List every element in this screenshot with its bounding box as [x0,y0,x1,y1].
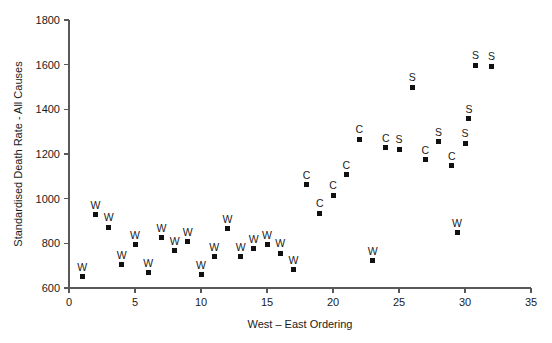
data-point-label: W [368,245,378,257]
data-point-label: W [104,211,114,223]
data-point: S [488,50,495,69]
data-point: C [329,179,337,198]
data-point-label: W [170,235,180,247]
data-point-label: W [117,249,127,261]
data-point-marker [291,267,296,272]
data-point-marker [455,230,460,235]
data-point-label: W [196,259,206,271]
data-point-marker [93,212,98,217]
data-point-marker [383,145,388,150]
x-tick-label: 5 [132,296,138,308]
data-point-marker [265,242,270,247]
y-axis-title: Standardised Death Rate - All Causes [12,61,24,247]
y-tick-label: 1600 [36,59,60,71]
data-point-marker [410,85,415,90]
data-point-marker [489,64,494,69]
data-point: C [356,123,364,142]
data-point: W [368,245,378,264]
data-point-marker [185,239,190,244]
data-point-marker [172,248,177,253]
data-point-label: S [488,50,495,62]
x-tick-label: 0 [66,296,72,308]
x-tick-label: 10 [195,296,207,308]
data-point: W [288,254,298,273]
data-point: W [249,233,259,252]
data-point-marker [119,262,124,267]
scatter-plot-figure: 6008001000120014001600180005101520253035… [0,0,552,343]
data-point: W [236,241,246,260]
data-point-marker [466,116,471,121]
data-point-label: C [382,132,390,144]
x-axis-title: West – East Ordering [248,318,353,330]
data-point-label: S [472,49,479,61]
data-point: W [143,257,153,276]
y-tick-label: 1800 [36,14,60,26]
data-point: W [275,237,285,256]
data-point-label: C [448,150,456,162]
data-point-label: W [77,261,87,273]
x-tick-label: 15 [261,296,273,308]
data-point-label: W [236,241,246,253]
data-point: S [472,49,479,68]
data-point: W [222,213,232,232]
data-point: W [77,261,87,280]
data-point-marker [278,251,283,256]
data-point-marker [423,157,428,162]
data-point: W [196,259,206,278]
data-point-label: W [130,229,140,241]
data-point: S [409,71,416,90]
data-point-label: C [422,144,430,156]
data-point-marker [331,193,336,198]
data-point-marker [436,139,441,144]
data-point-label: W [262,229,272,241]
x-tick-label: 20 [327,296,339,308]
data-point-label: W [275,237,285,249]
data-point: S [465,103,472,122]
data-point-label: W [249,233,259,245]
data-point-label: C [356,123,364,135]
data-point: W [130,229,140,248]
data-point: W [170,235,180,254]
data-point-label: W [288,254,298,266]
data-point-label: S [461,127,468,139]
data-point: W [156,222,166,241]
data-point-label: S [465,103,472,115]
data-point: C [342,159,350,178]
data-point-marker [199,272,204,277]
y-tick-label: 600 [42,282,60,294]
data-point-marker [463,141,468,146]
data-point-label: C [342,159,350,171]
data-point-marker [473,63,478,68]
data-point-label: W [183,226,193,238]
data-point-label: C [303,169,311,181]
x-tick-label: 25 [393,296,405,308]
data-point-label: S [435,126,442,138]
data-point-label: S [409,71,416,83]
data-point: W [90,199,100,218]
y-tick-label: 1000 [36,193,60,205]
data-point-marker [238,254,243,259]
data-point-marker [357,137,362,142]
data-point-marker [80,274,85,279]
data-point-marker [370,258,375,263]
data-point-label: W [209,241,219,253]
data-point: W [452,217,462,236]
data-point-marker [146,270,151,275]
data-point-marker [397,147,402,152]
data-point: S [435,126,442,145]
data-point-label: W [222,213,232,225]
data-point-marker [251,246,256,251]
data-point-marker [133,242,138,247]
data-point-marker [449,163,454,168]
data-point: W [262,229,272,248]
data-point-label: C [316,197,324,209]
data-point: S [395,133,402,152]
data-point-marker [317,211,322,216]
data-point-marker [106,225,111,230]
data-point: C [382,132,390,151]
y-tick-label: 1400 [36,103,60,115]
y-tick-label: 1200 [36,148,60,160]
data-point-label: W [90,199,100,211]
data-point: W [104,211,114,230]
data-point: C [316,197,324,216]
